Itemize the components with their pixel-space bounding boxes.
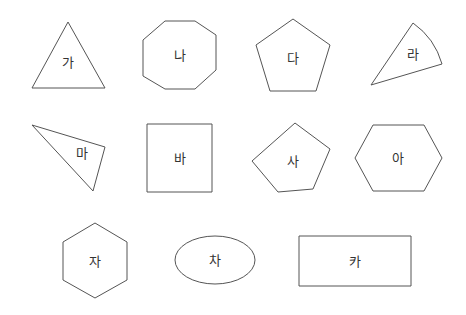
shape-label: 카: [349, 254, 361, 269]
shape-ra: 라: [371, 23, 442, 85]
shape-da: 다: [256, 19, 330, 91]
shape-label: 다: [287, 51, 299, 66]
triangle-shape: [32, 125, 105, 191]
shape-label: 아: [392, 151, 404, 166]
shape-label: 마: [76, 146, 88, 161]
shape-label: 나: [174, 48, 186, 63]
shape-a: 아: [355, 125, 442, 191]
shape-ma: 마: [32, 125, 105, 191]
shape-ga: 가: [32, 22, 105, 88]
shape-label: 라: [407, 47, 419, 62]
shape-ka: 카: [299, 236, 411, 286]
shape-label: 가: [62, 55, 74, 70]
shape-label: 자: [89, 254, 101, 269]
shapes-diagram: 가 나 다 라 마 바 사 아: [0, 0, 466, 315]
shapes-svg: 가 나 다 라 마 바 사 아: [0, 0, 466, 315]
shape-na: 나: [143, 21, 216, 89]
shape-cha: 차: [175, 236, 255, 284]
shape-ja: 자: [63, 223, 127, 298]
shape-ba: 바: [147, 124, 212, 192]
shape-sa: 사: [252, 123, 330, 192]
shape-label: 차: [209, 253, 221, 268]
shape-label: 바: [174, 151, 186, 166]
shape-label: 사: [287, 154, 299, 169]
